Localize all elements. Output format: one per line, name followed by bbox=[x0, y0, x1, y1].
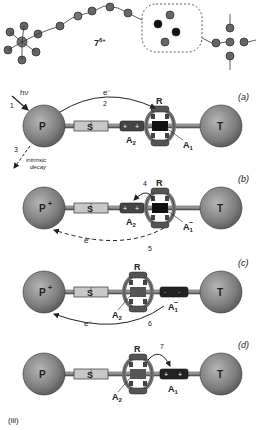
panel-label: (c) bbox=[238, 258, 249, 268]
step-4: 4 bbox=[143, 180, 147, 187]
spacer-label: S bbox=[87, 370, 93, 380]
photosensitizer-charge: + bbox=[48, 284, 52, 291]
station-a1-label: A1 bbox=[183, 140, 194, 151]
step-5: 5 bbox=[148, 245, 152, 252]
spacer-label: S bbox=[87, 204, 93, 214]
photosensitizer-label: P bbox=[39, 121, 46, 132]
station-a2-label: A2 bbox=[126, 135, 137, 146]
ring-label: R bbox=[156, 178, 163, 188]
panel-label: (b) bbox=[238, 174, 249, 184]
panel-d: PTS++RA2A1(d)7 bbox=[23, 340, 249, 403]
svg-text:+: + bbox=[135, 205, 139, 212]
light-label: hν bbox=[20, 88, 28, 97]
step-7: 7 bbox=[160, 343, 164, 350]
ring-label: R bbox=[156, 96, 163, 106]
svg-text:+: + bbox=[164, 371, 168, 378]
electron-label: e⁻ bbox=[84, 236, 92, 245]
molecular-structure bbox=[4, 3, 256, 70]
step-3: 3 bbox=[14, 146, 18, 153]
panel-label: (d) bbox=[238, 340, 249, 350]
photosensitizer-charge: + bbox=[48, 200, 52, 207]
decay-label-1: intrinsic bbox=[26, 157, 46, 163]
back-electron-arrow bbox=[54, 228, 164, 241]
electron-transfer-arrow bbox=[60, 97, 155, 112]
spacer-label: S bbox=[87, 288, 93, 298]
station-a2-label: A2 bbox=[112, 310, 123, 321]
light-arrow bbox=[12, 96, 28, 110]
shuttle-diagram: 76+ PTS++RA2A1(a)hν1e⁻23intrinsicdecayP+… bbox=[0, 0, 265, 430]
spacer-label: S bbox=[87, 122, 93, 132]
panel-label: (a) bbox=[238, 92, 249, 102]
stopper-label: T bbox=[217, 369, 223, 380]
ring-label: R bbox=[134, 262, 141, 272]
station-a1-label: A1− bbox=[183, 219, 194, 233]
panel-b: P+TS++RA2A1−(b)4e⁻5 bbox=[23, 174, 249, 252]
photosensitizer-label: P bbox=[39, 287, 46, 298]
stopper-label: T bbox=[217, 203, 223, 214]
station-a2-label: A2 bbox=[112, 392, 123, 403]
panel-a: PTS++RA2A1(a)hν1e⁻23intrinsicdecay bbox=[10, 88, 249, 170]
step-6: 6 bbox=[148, 320, 152, 327]
svg-text:+: + bbox=[135, 123, 139, 130]
step-1: 1 bbox=[10, 102, 14, 109]
photosensitizer-label: P bbox=[39, 203, 46, 214]
svg-text:·: · bbox=[164, 289, 166, 296]
svg-text:+: + bbox=[123, 205, 127, 212]
station-a1-label: A1 bbox=[168, 384, 179, 395]
svg-text:+: + bbox=[178, 371, 182, 378]
panel-c: P+TS··RA2A1−(c)e⁻6 bbox=[23, 258, 249, 328]
electron-label: e⁻ bbox=[84, 319, 92, 328]
panels: PTS++RA2A1(a)hν1e⁻23intrinsicdecayP+TS++… bbox=[10, 88, 249, 403]
stopper-label: T bbox=[217, 287, 223, 298]
part-label: (iii) bbox=[8, 416, 19, 425]
electron-label: e⁻ bbox=[103, 88, 111, 97]
photosensitizer-label: P bbox=[39, 369, 46, 380]
svg-text:+: + bbox=[123, 123, 127, 130]
stopper-label: T bbox=[217, 121, 223, 132]
svg-text:·: · bbox=[178, 289, 180, 296]
step-2: 2 bbox=[103, 100, 107, 107]
station-a1-label: A1− bbox=[168, 299, 179, 313]
compound-label: 76+ bbox=[94, 37, 106, 48]
ring-label: R bbox=[134, 344, 141, 354]
ruthenium-complex-icon bbox=[4, 22, 42, 64]
station-a2-label: A2 bbox=[126, 217, 137, 228]
decay-label-2: decay bbox=[30, 164, 47, 170]
